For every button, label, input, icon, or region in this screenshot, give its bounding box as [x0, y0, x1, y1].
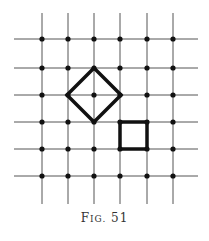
lattice-point: [39, 173, 44, 178]
lattice-point: [65, 65, 70, 70]
lattice-point: [91, 173, 96, 178]
lattice-diagram: [0, 0, 209, 241]
lattice-point: [144, 92, 149, 97]
lattice-point: [39, 146, 44, 151]
lattice-point: [117, 36, 122, 41]
lattice-point: [117, 65, 122, 70]
lattice-point: [117, 146, 122, 151]
lattice-point: [91, 65, 96, 70]
lattice-point: [170, 92, 175, 97]
lattice-point: [91, 92, 96, 97]
lattice-point: [170, 146, 175, 151]
lattice-point: [65, 146, 70, 151]
lattice-point: [39, 119, 44, 124]
lattice-point: [144, 65, 149, 70]
lattice-point: [117, 92, 122, 97]
lattice-point: [65, 36, 70, 41]
lattice-point: [144, 119, 149, 124]
lattice-point: [91, 146, 96, 151]
lattice-point: [170, 173, 175, 178]
lattice-point: [170, 36, 175, 41]
lattice-point: [170, 65, 175, 70]
lattice-point: [65, 173, 70, 178]
lattice-point: [170, 119, 175, 124]
caption-fig: IG.: [90, 214, 106, 224]
lattice-point: [39, 36, 44, 41]
lattice-point: [39, 92, 44, 97]
caption-number: 51: [111, 211, 128, 225]
lattice-point: [39, 65, 44, 70]
lattice-point: [65, 92, 70, 97]
lattice-point: [144, 36, 149, 41]
caption-prefix: F: [81, 211, 90, 225]
axis-aligned-square-shape: [120, 122, 147, 149]
lattice-point: [144, 173, 149, 178]
lattice-point: [91, 36, 96, 41]
lattice-point: [144, 146, 149, 151]
lattice-point: [65, 119, 70, 124]
lattice-point: [117, 119, 122, 124]
figure-caption: FIG. 51: [0, 211, 209, 225]
lattice-point: [91, 119, 96, 124]
lattice-point: [117, 173, 122, 178]
